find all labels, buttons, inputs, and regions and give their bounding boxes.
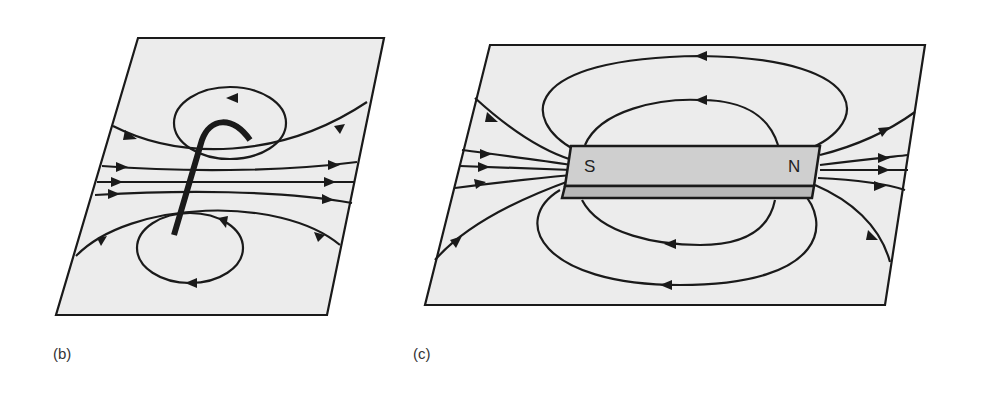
- bar-magnet: S N: [562, 146, 820, 198]
- panel-label-c: (c): [413, 345, 431, 362]
- panel-b: [56, 38, 384, 315]
- figure-canvas: S N: [0, 0, 1004, 396]
- south-pole-label: S: [584, 157, 595, 176]
- north-pole-label: N: [788, 157, 800, 176]
- panel-label-b: (b): [53, 345, 71, 362]
- plane-b: [56, 38, 384, 315]
- magnet-side-face: [562, 186, 814, 198]
- magnet-top-face: [565, 146, 820, 186]
- panel-c: S N: [425, 45, 925, 305]
